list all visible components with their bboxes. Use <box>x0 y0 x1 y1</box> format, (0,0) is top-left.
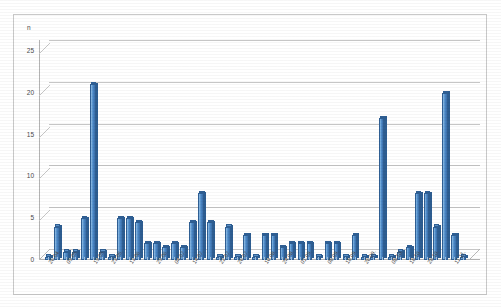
bar-chart: n 0510152025 26.04.09.05.19.05.23.05.13.… <box>0 0 501 307</box>
x-tick <box>210 257 211 260</box>
bar-top-face <box>91 82 97 84</box>
y-tick-label: 20 <box>27 90 34 97</box>
bar-top-face <box>353 233 359 235</box>
y-tick-label: 0 <box>30 257 34 264</box>
bar-top-face <box>434 224 440 226</box>
x-tick <box>255 257 256 260</box>
bar-side-face <box>420 192 422 259</box>
bar-top-face <box>325 241 331 243</box>
bar-top-face <box>172 241 178 243</box>
bar-side-face <box>448 91 450 258</box>
bar-top-face <box>443 91 449 93</box>
bar-top-face <box>289 241 295 243</box>
bar-top-face <box>136 220 142 222</box>
bar-top-face <box>244 233 250 235</box>
bar <box>207 219 213 260</box>
bar-top-face <box>190 220 196 222</box>
bar-side-face <box>96 83 98 259</box>
bar-top-face <box>280 245 286 247</box>
bar-top-face <box>82 216 88 218</box>
bar-top-face <box>298 241 304 243</box>
bar-top-face <box>118 216 124 218</box>
bar-top-face <box>262 233 268 235</box>
bar-top-face <box>271 233 277 235</box>
bar-side-face <box>276 233 278 258</box>
bar-top-face <box>307 241 313 243</box>
bar-top-face <box>226 224 232 226</box>
bar-side-face <box>204 192 206 259</box>
bar <box>126 215 132 260</box>
bar-top-face <box>425 191 431 193</box>
bar-side-face <box>429 192 431 259</box>
bar-top-face <box>208 220 214 222</box>
bar-series <box>39 40 480 260</box>
y-tick-label: 15 <box>27 131 34 138</box>
bar-top-face <box>407 245 413 247</box>
bar-side-face <box>357 233 359 258</box>
y-tick-label: 10 <box>27 173 34 180</box>
bar-top-face <box>55 224 61 226</box>
bar-side-face <box>249 233 251 258</box>
plot-area: 0510152025 <box>39 40 480 260</box>
bar-side-face <box>339 242 341 259</box>
bar <box>424 190 430 260</box>
bar <box>189 219 195 260</box>
bar-top-face <box>380 116 386 118</box>
y-axis-title: n <box>27 24 31 31</box>
bar <box>442 90 448 260</box>
y-tick-label: 5 <box>30 215 34 222</box>
x-tick <box>318 257 319 260</box>
bar-side-face <box>294 242 296 259</box>
bar-top-face <box>334 241 340 243</box>
x-tick <box>147 257 148 260</box>
bar-top-face <box>154 241 160 243</box>
bar <box>81 215 87 260</box>
y-tick-label: 25 <box>27 48 34 55</box>
x-tick <box>84 257 85 260</box>
bar-top-face <box>64 249 70 251</box>
bar-top-face <box>416 191 422 193</box>
x-tick <box>445 257 446 260</box>
bar-side-face <box>384 116 386 258</box>
bar <box>379 115 385 260</box>
bar-top-face <box>199 191 205 193</box>
bar-side-face <box>150 242 152 259</box>
bar-top-face <box>127 216 133 218</box>
x-tick <box>382 257 383 260</box>
bar-top-face <box>452 233 458 235</box>
bar-top-face <box>145 241 151 243</box>
bar-side-face <box>213 221 215 259</box>
bar <box>90 81 96 260</box>
x-axis-labels: 26.04.09.05.19.05.23.05.13.06.29.06.04.0… <box>39 262 491 306</box>
bar-side-face <box>312 242 314 259</box>
bar-side-face <box>87 217 89 259</box>
